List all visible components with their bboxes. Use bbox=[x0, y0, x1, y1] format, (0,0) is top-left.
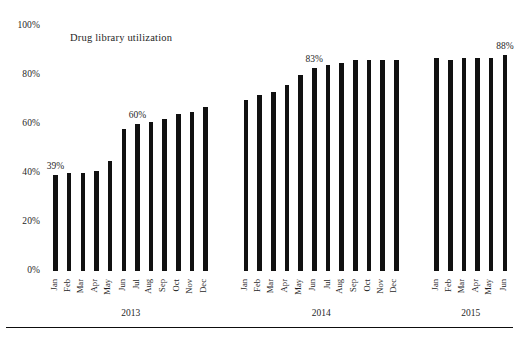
year-group-label: 2015 bbox=[461, 309, 480, 319]
x-axis-tick-label: Dec bbox=[199, 272, 213, 290]
bar bbox=[162, 119, 167, 271]
x-axis-tick-label: Mar bbox=[457, 272, 471, 290]
x-axis-tick-text: Mar bbox=[266, 279, 275, 293]
x-axis-tick-text: Sep bbox=[349, 279, 358, 292]
bar-value-label: 60% bbox=[129, 111, 146, 121]
x-axis-tick-text: Dec bbox=[389, 279, 398, 293]
y-axis-tick-label: 0% bbox=[27, 266, 40, 276]
bottom-divider-rule bbox=[6, 327, 513, 328]
bar bbox=[312, 68, 317, 271]
x-axis-tick-text: Aug bbox=[335, 279, 344, 294]
x-axis-tick-text: Feb bbox=[253, 279, 262, 292]
bar bbox=[394, 60, 399, 271]
bar bbox=[271, 92, 276, 271]
bar bbox=[81, 173, 86, 271]
x-axis-tick-label: Aug bbox=[144, 272, 158, 290]
plot-area: 0%20%40%60%80%100%39%60%83%88% bbox=[48, 26, 511, 271]
x-axis-tick-text: Apr bbox=[471, 279, 480, 292]
bar bbox=[149, 122, 154, 271]
x-axis-tick-label: Sep bbox=[158, 272, 172, 290]
bar bbox=[367, 60, 372, 271]
chart-figure: Drug library utilization 0%20%40%60%80%1… bbox=[0, 0, 519, 338]
x-axis-tick-label: Dec bbox=[389, 272, 403, 290]
x-axis-tick-text: Jun bbox=[499, 279, 508, 291]
x-axis-tick-text: Mar bbox=[76, 279, 85, 293]
x-axis-tick-label: May bbox=[484, 272, 498, 290]
bar bbox=[462, 58, 467, 271]
x-axis-tick-text: Apr bbox=[90, 279, 99, 292]
x-axis-tick-text: Aug bbox=[144, 279, 153, 294]
bar bbox=[257, 95, 262, 271]
x-axis-tick-label: Oct bbox=[362, 272, 376, 290]
x-axis-tick-text: Nov bbox=[185, 279, 194, 294]
x-axis-tick-label: Jun bbox=[117, 272, 131, 290]
x-axis-tick-text: May bbox=[294, 279, 303, 295]
x-axis-tick-label: Jan bbox=[49, 272, 63, 290]
bar bbox=[244, 100, 249, 272]
x-axis-month-labels: JanFebMarAprMayJunJulAugSepOctNovDecJanF… bbox=[48, 272, 511, 306]
bar bbox=[285, 85, 290, 271]
x-axis-tick-text: Jul bbox=[323, 279, 332, 289]
bar-value-label: 88% bbox=[496, 42, 513, 52]
y-axis-tick-label: 20% bbox=[22, 217, 40, 227]
bar bbox=[190, 112, 195, 271]
bar bbox=[475, 58, 480, 271]
x-axis-tick-text: Feb bbox=[63, 279, 72, 292]
bar bbox=[135, 124, 140, 271]
x-axis-tick-text: Feb bbox=[444, 279, 453, 292]
x-axis-tick-label: Mar bbox=[76, 272, 90, 290]
y-axis-tick-label: 100% bbox=[17, 21, 40, 31]
x-axis-tick-text: Jul bbox=[132, 279, 141, 289]
bar bbox=[94, 171, 99, 271]
bar bbox=[353, 60, 358, 271]
x-axis-tick-text: Sep bbox=[158, 279, 167, 292]
bar bbox=[108, 161, 113, 271]
x-axis-tick-label: Aug bbox=[335, 272, 349, 290]
x-axis-tick-label: Nov bbox=[185, 272, 199, 290]
x-axis-tick-text: Jan bbox=[50, 279, 59, 290]
bar bbox=[448, 60, 453, 271]
x-axis-tick-label: May bbox=[294, 272, 308, 290]
year-group-label: 2014 bbox=[312, 309, 331, 319]
x-axis-tick-text: Oct bbox=[363, 279, 372, 291]
x-axis-tick-text: Mar bbox=[457, 279, 466, 293]
bar bbox=[176, 114, 181, 271]
bar bbox=[203, 107, 208, 271]
bar bbox=[489, 58, 494, 271]
x-axis-tick-text: May bbox=[484, 279, 493, 295]
x-axis-tick-text: Apr bbox=[280, 279, 289, 292]
year-group-label: 2013 bbox=[121, 309, 140, 319]
x-axis-tick-text: Jan bbox=[240, 279, 249, 290]
x-axis-tick-label: Apr bbox=[280, 272, 294, 290]
x-axis-tick-label: Jan bbox=[430, 272, 444, 290]
x-axis-tick-label: Jul bbox=[321, 272, 335, 290]
x-axis-tick-label: May bbox=[103, 272, 117, 290]
y-axis-tick-label: 80% bbox=[22, 70, 40, 80]
bar-value-label: 83% bbox=[306, 54, 323, 64]
x-axis-tick-text: Jan bbox=[431, 279, 440, 290]
bar bbox=[339, 63, 344, 271]
bar-value-label: 39% bbox=[47, 162, 64, 172]
bar bbox=[434, 58, 439, 271]
x-axis-tick-text: Dec bbox=[199, 279, 208, 293]
x-axis-tick-text: Oct bbox=[172, 279, 181, 291]
y-axis-tick-label: 40% bbox=[22, 168, 40, 178]
y-axis-tick-label: 60% bbox=[22, 119, 40, 129]
x-axis-tick-text: Nov bbox=[376, 279, 385, 294]
bar bbox=[380, 60, 385, 271]
x-axis-tick-label: Jan bbox=[239, 272, 253, 290]
x-axis-tick-label: Jun bbox=[498, 272, 512, 290]
x-axis-tick-label: Sep bbox=[348, 272, 362, 290]
x-axis-tick-text: Jun bbox=[118, 279, 127, 291]
bar bbox=[298, 75, 303, 271]
bar bbox=[67, 173, 72, 271]
bar bbox=[326, 65, 331, 271]
x-axis-tick-label: Jun bbox=[307, 272, 321, 290]
bar bbox=[53, 175, 58, 271]
x-axis-tick-text: Jun bbox=[308, 279, 317, 291]
bar bbox=[122, 129, 127, 271]
bar bbox=[503, 55, 508, 271]
x-axis-tick-text: May bbox=[103, 279, 112, 295]
